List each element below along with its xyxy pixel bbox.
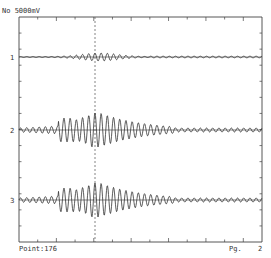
axis-ticks	[19, 17, 262, 242]
channel-label-3: 3	[10, 197, 14, 205]
channel-label-1: 1	[10, 54, 14, 62]
scale-label: No 5000mV	[2, 7, 41, 15]
page-number[interactable]: 2	[258, 245, 262, 253]
channel-labels: 123	[10, 54, 14, 205]
point-label: Point:176	[19, 245, 57, 253]
oscilloscope-plot[interactable]: No 5000mV 123 Point:176 Pg. 2	[0, 0, 271, 258]
channel-label-2: 2	[10, 127, 14, 135]
plot-frame	[19, 17, 262, 242]
traces	[19, 53, 262, 217]
page-label: Pg.	[229, 245, 242, 253]
